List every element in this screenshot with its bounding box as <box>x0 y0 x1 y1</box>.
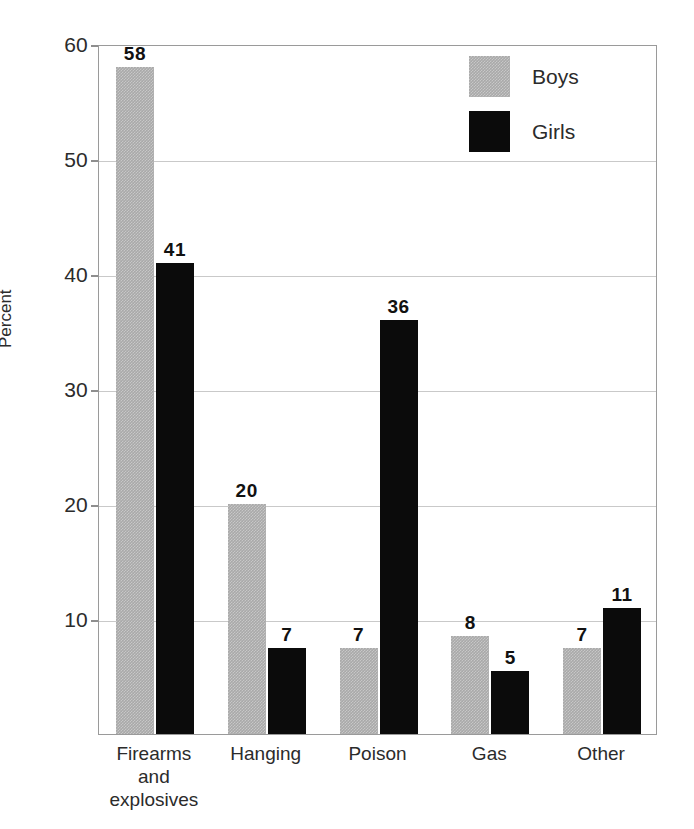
y-tick-label-40: 40 <box>42 263 88 287</box>
bar-value-label: 36 <box>368 296 430 318</box>
y-tick-label-60: 60 <box>42 33 88 57</box>
bar-boys-0 <box>116 67 154 734</box>
bar-girls-0 <box>156 263 194 735</box>
plot-area: 582078741736511 BoysGirls <box>98 45 657 735</box>
bar-boys-1 <box>228 504 266 734</box>
bar-value-label: 8 <box>439 612 501 634</box>
legend-item-girls[interactable]: Girls <box>469 111 575 152</box>
y-tick-label-30: 30 <box>42 378 88 402</box>
x-label-line: and <box>74 765 234 788</box>
bar-chart: Percent 102030405060 582078741736511 Boy… <box>0 0 694 829</box>
y-tick-mark-60 <box>91 45 98 47</box>
y-tick-mark-10 <box>91 620 98 622</box>
y-tick-mark-50 <box>91 160 98 162</box>
y-tick-mark-40 <box>91 275 98 277</box>
bar-value-label: 11 <box>591 584 653 606</box>
y-axis-title: Percent <box>0 289 16 348</box>
y-tick-mark-30 <box>91 390 98 392</box>
bar-girls-3 <box>491 671 529 734</box>
bar-value-label: 20 <box>216 480 278 502</box>
cropped-caption-sliver <box>95 0 425 6</box>
bar-boys-4 <box>563 648 601 734</box>
girls-swatch <box>469 111 510 152</box>
bar-value-label: 7 <box>256 624 318 646</box>
bar-value-label: 58 <box>104 43 166 65</box>
legend-item-boys[interactable]: Boys <box>469 56 579 97</box>
bar-value-label: 41 <box>144 239 206 261</box>
legend-label: Boys <box>532 65 579 89</box>
x-category-label-4: Other <box>521 742 681 765</box>
bar-value-label: 5 <box>479 647 541 669</box>
boys-swatch <box>469 56 510 97</box>
y-tick-label-50: 50 <box>42 148 88 172</box>
x-label-line: explosives <box>74 788 234 811</box>
y-tick-mark-20 <box>91 505 98 507</box>
x-label-line: Other <box>521 742 681 765</box>
legend-label: Girls <box>532 120 575 144</box>
bar-girls-1 <box>268 648 306 734</box>
y-tick-label-10: 10 <box>42 608 88 632</box>
y-tick-label-20: 20 <box>42 493 88 517</box>
bar-girls-4 <box>603 608 641 735</box>
bar-boys-2 <box>340 648 378 734</box>
bar-girls-2 <box>380 320 418 734</box>
